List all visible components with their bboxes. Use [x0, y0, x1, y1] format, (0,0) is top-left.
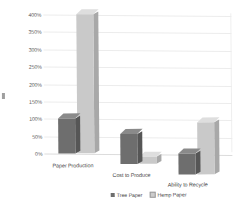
legend-item-hemp-paper: Hemp Paper: [149, 192, 186, 198]
bar-front-face: [58, 119, 75, 154]
bar-side-face: [75, 116, 80, 153]
bar-side-face: [137, 132, 142, 164]
y-tick-label: 250%: [10, 64, 42, 70]
y-tick-label: 50%: [10, 133, 42, 139]
gridline-300%: [44, 49, 232, 51]
bar-side-face: [195, 151, 200, 175]
y-tick-label: 350%: [9, 29, 41, 35]
y-tick-label: 100%: [10, 116, 42, 122]
hemp-paper-swatch-icon: [149, 192, 155, 198]
legend-label-hemp-paper: Hemp Paper: [157, 192, 186, 198]
y-tick-label: 0%: [10, 151, 42, 157]
scan-artifact: [2, 93, 5, 99]
category-label-cost-to-produce: Cost to Produce: [113, 172, 151, 178]
chart-legend: Tree Paper Hemp Paper: [111, 192, 187, 199]
y-tick-label: 150%: [10, 99, 42, 105]
gridline-350%: [43, 32, 231, 34]
bar-tree-paper-ability-to-recycle: [178, 154, 195, 175]
gridline-150%: [44, 101, 232, 103]
legend-label-tree-paper: Tree Paper: [117, 192, 143, 198]
y-tick-label: 200%: [10, 81, 42, 87]
y-axis: 0%50%100%150%200%250%300%350%400%: [9, 13, 42, 153]
plot-area: [43, 13, 232, 153]
category-label-paper-production: Paper Production: [52, 162, 93, 168]
bar-side-face: [214, 119, 219, 174]
legend-item-tree-paper: Tree Paper: [111, 192, 143, 198]
bar-tree-paper-paper-production: [58, 119, 75, 154]
bar-front-face: [120, 134, 137, 164]
gridline-400%: [43, 15, 231, 17]
bar-tree-paper-cost-to-produce: [120, 134, 137, 164]
y-tick-label: 300%: [10, 46, 42, 52]
gridline-250%: [44, 67, 232, 69]
tree-paper-swatch-icon: [111, 193, 115, 197]
bar-front-face: [178, 154, 195, 175]
y-tick-label: 400%: [9, 12, 41, 18]
bar-chart: 0%50%100%150%200%250%300%350%400% Paper …: [0, 0, 246, 208]
gridline-200%: [44, 84, 232, 86]
category-label-ability-to-recycle: Ability to Recycle: [168, 181, 208, 187]
